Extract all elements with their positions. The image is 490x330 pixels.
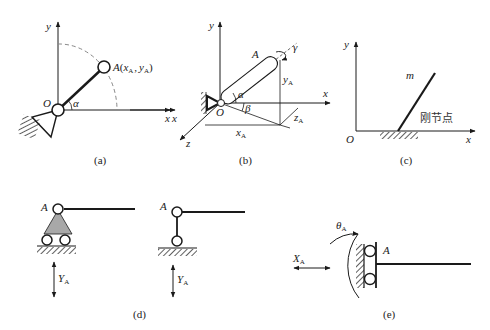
pin-joint-a-left [53, 204, 63, 214]
ground-hatch-left [37, 247, 76, 254]
y-axis-label: y [45, 20, 51, 32]
panel-d: A YA A YA (d) [37, 200, 245, 321]
theta-a-label: θA [336, 219, 346, 233]
force-xa-label: XA [292, 252, 305, 266]
x-axis-label: x [465, 133, 471, 145]
xa-label: xA [235, 126, 246, 140]
za-label: zA [293, 111, 303, 125]
z-axis [180, 103, 220, 140]
rotation-arrow [330, 234, 358, 244]
rod [218, 38, 301, 107]
origin-label: O [346, 133, 354, 145]
alpha-label: α [73, 97, 79, 109]
origin-label: O [216, 106, 224, 118]
panel-b: x y x z γ A α β yA xA zA O (b) [130, 19, 330, 167]
z-axis-label: z [185, 137, 191, 149]
link-bar [58, 67, 104, 110]
point-a-label: A [251, 48, 259, 60]
pin-joint-a [98, 61, 110, 73]
panel-a: y x α O A(xA,yA) (a) [17, 20, 170, 167]
wall-hatch [356, 244, 364, 288]
mass-label: m [406, 69, 414, 81]
roller-1 [365, 246, 376, 257]
projection-ext [280, 125, 290, 128]
left-x-label: x [171, 112, 177, 124]
x-axis-label: x [164, 112, 170, 124]
rigid-joint-label: 刚节点 [420, 112, 453, 125]
pin-joint-ground [172, 236, 182, 246]
point-a-label-right: A [159, 200, 167, 212]
caption-e: (e) [383, 308, 396, 321]
alpha-label: α [238, 88, 244, 100]
beta-arc [242, 103, 244, 111]
force-ya-label-left: YA [58, 272, 69, 286]
caption-d: (d) [133, 308, 146, 321]
pin-joint-o [52, 104, 64, 116]
ground-hatch [380, 132, 418, 139]
origin-label: O [43, 97, 51, 109]
y-axis-label: y [208, 19, 214, 31]
ground-hatch-right [158, 249, 197, 256]
mechanics-figure: y x α O A(xA,yA) (a) x y x z [0, 0, 490, 330]
x-axis-label: x [322, 87, 328, 99]
caption-b: (b) [239, 154, 252, 167]
wall-hatch [201, 92, 206, 114]
panel-c: y x O m 刚节点 (c) [343, 38, 475, 167]
y-axis-label: y [343, 38, 349, 50]
roller-left-1 [42, 235, 52, 245]
panel-e: θA XA A (e) [292, 219, 471, 321]
point-a-label-left: A [40, 201, 48, 213]
force-ya-label-right: YA [177, 273, 188, 287]
gamma-label: γ [293, 41, 298, 53]
caption-c: (c) [400, 154, 413, 167]
ya-label: yA [282, 73, 293, 87]
roller-left-2 [60, 235, 70, 245]
pin-joint-a-right [172, 207, 182, 217]
point-a-label: A(xA,yA) [112, 61, 153, 75]
caption-a: (a) [94, 154, 107, 167]
beta-label: β [244, 102, 251, 114]
point-a-label: A [382, 244, 390, 256]
roller-2 [365, 274, 376, 285]
